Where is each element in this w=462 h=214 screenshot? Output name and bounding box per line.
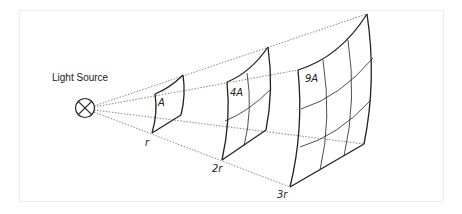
distance-label-3r: 3r bbox=[277, 189, 288, 200]
area-label-9a: 9A bbox=[305, 73, 318, 84]
light-source-icon bbox=[76, 99, 95, 118]
inverse-square-diagram: Light Source A r 4A 2r 9A 3r bbox=[0, 0, 462, 214]
light-source-label: Light Source bbox=[52, 72, 109, 83]
surface-3r bbox=[290, 14, 373, 187]
area-label-a: A bbox=[157, 97, 165, 108]
surface-2r bbox=[222, 47, 271, 160]
distance-label-2r: 2r bbox=[212, 163, 223, 174]
light-rays bbox=[94, 14, 367, 187]
surface-r bbox=[152, 75, 184, 133]
distance-label-r: r bbox=[145, 137, 150, 148]
area-label-4a: 4A bbox=[230, 87, 243, 98]
